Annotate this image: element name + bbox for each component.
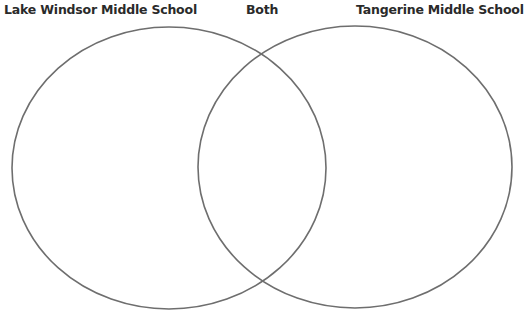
right-circle [198,26,512,308]
left-circle [12,27,326,309]
